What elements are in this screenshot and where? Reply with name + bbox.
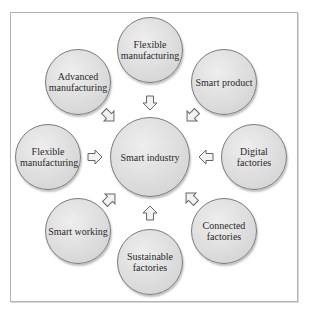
node-label: Sustainable factories bbox=[120, 251, 180, 273]
hub-label: Smart industry bbox=[118, 152, 181, 163]
node-bottom: Sustainable factories bbox=[117, 229, 183, 295]
arrow-left-icon bbox=[199, 150, 213, 164]
arrow-down-right-icon bbox=[99, 106, 119, 126]
node-top-right: Smart product bbox=[191, 49, 257, 115]
node-label: Smart product bbox=[194, 77, 255, 88]
arrow-up-left-icon bbox=[181, 188, 201, 208]
node-left: Flexible manufacturing bbox=[15, 124, 81, 190]
node-label: Flexible manufacturing bbox=[18, 146, 78, 168]
node-top: Flexible manufacturing bbox=[117, 17, 183, 83]
node-hub: Smart industry bbox=[110, 117, 190, 197]
node-right: Digital factories bbox=[221, 124, 287, 190]
arrow-down-icon bbox=[143, 96, 157, 110]
node-bottom-right: Connected factories bbox=[191, 198, 257, 264]
node-label: Digital factories bbox=[222, 146, 286, 168]
node-label: Connected factories bbox=[198, 220, 250, 242]
arrow-right-icon bbox=[88, 150, 102, 164]
node-bottom-left: Smart working bbox=[45, 198, 111, 264]
arrow-down-left-icon bbox=[182, 106, 202, 126]
node-label: Smart working bbox=[46, 226, 110, 237]
arrow-up-right-icon bbox=[100, 189, 120, 209]
arrow-up-icon bbox=[143, 206, 157, 220]
node-label: Flexible manufacturing bbox=[118, 39, 182, 61]
node-label: Advanced manufacturing bbox=[46, 71, 110, 93]
node-top-left: Advanced manufacturing bbox=[45, 49, 111, 115]
